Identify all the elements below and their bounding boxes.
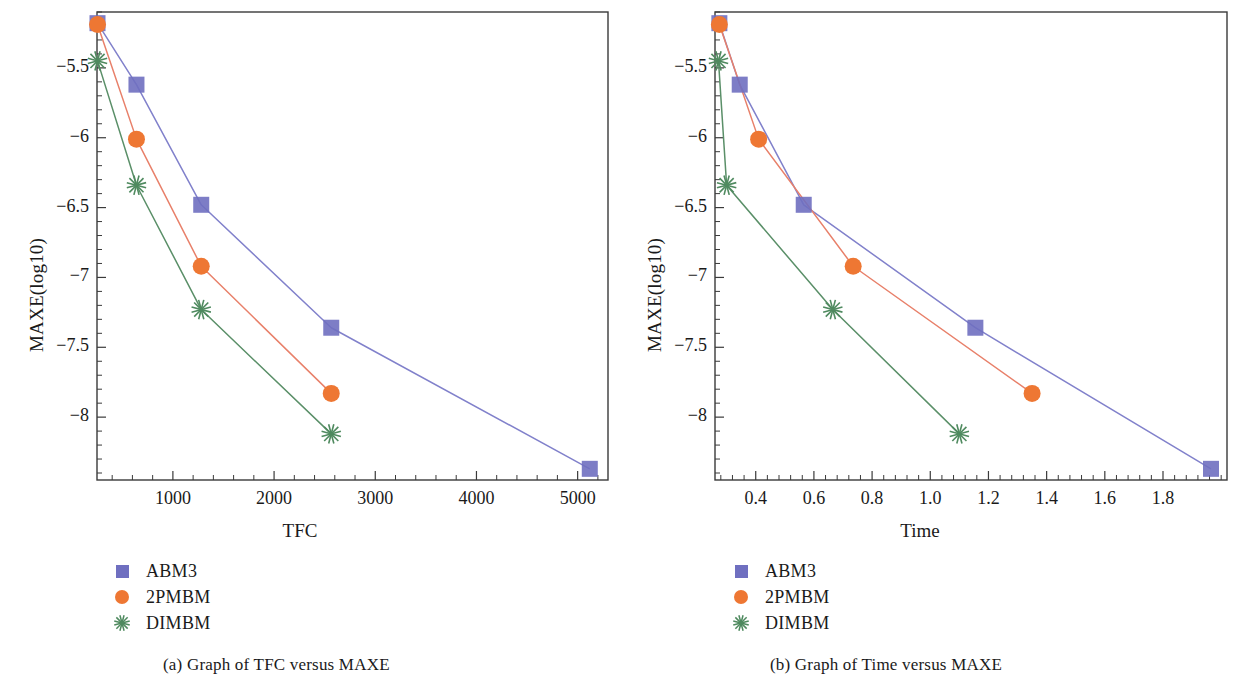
y-tick-label: −5.5 [657, 56, 707, 77]
panel-time-vs-maxe: MAXE(log10) Time ABM32PMBMDIMBM (b) Grap… [617, 0, 1234, 684]
legend-label: ABM3 [146, 561, 197, 582]
legend-label: DIMBM [146, 613, 211, 634]
legend-circle-icon [727, 590, 755, 604]
legend-square-icon [727, 565, 755, 578]
y-tick-label: −7 [657, 265, 707, 286]
legend-star-icon [108, 614, 136, 632]
legend-item-abm3[interactable]: ABM3 [108, 558, 211, 584]
y-tick-label: −7.5 [39, 335, 89, 356]
legend-b: ABM32PMBMDIMBM [727, 558, 830, 636]
y-tick-label: −8 [657, 405, 707, 426]
legend-label: 2PMBM [765, 587, 830, 608]
caption-b: (b) Graph of Time versus MAXE [770, 655, 1002, 675]
square-marker-icon [116, 565, 129, 578]
legend-item-dimbm[interactable]: DIMBM [108, 610, 211, 636]
x-tick-label: 1000 [133, 488, 213, 509]
star-marker-icon [732, 614, 750, 632]
x-axis-label-b: Time [860, 520, 980, 542]
y-tick-label: −6.5 [39, 196, 89, 217]
x-tick-label: 4000 [436, 488, 516, 509]
y-tick-label: −7 [39, 265, 89, 286]
figure-two-panel: MAXE(log10) TFC ABM32PMBMDIMBM (a) Graph… [0, 0, 1235, 684]
square-marker-icon [735, 565, 748, 578]
legend-a: ABM32PMBMDIMBM [108, 558, 211, 636]
legend-square-icon [108, 565, 136, 578]
x-tick-label: 1.8 [1123, 488, 1203, 509]
x-axis-label-a: TFC [240, 520, 360, 542]
circle-marker-icon [734, 590, 748, 604]
x-tick-label: 2000 [234, 488, 314, 509]
chart-svg-a [0, 0, 617, 540]
chart-svg-b [617, 0, 1234, 540]
x-tick-label: 3000 [335, 488, 415, 509]
y-tick-label: −6 [657, 126, 707, 147]
legend-star-icon [727, 614, 755, 632]
y-tick-label: −8 [39, 405, 89, 426]
legend-item-dimbm[interactable]: DIMBM [727, 610, 830, 636]
plot-area-a [0, 0, 617, 540]
y-tick-label: −7.5 [657, 335, 707, 356]
legend-label: ABM3 [765, 561, 816, 582]
y-tick-label: −5.5 [39, 56, 89, 77]
star-marker-icon [113, 614, 131, 632]
y-tick-label: −6 [39, 126, 89, 147]
legend-item-2pmbm[interactable]: 2PMBM [108, 584, 211, 610]
caption-a: (a) Graph of TFC versus MAXE [163, 655, 390, 675]
legend-circle-icon [108, 590, 136, 604]
legend-label: DIMBM [765, 613, 830, 634]
legend-item-2pmbm[interactable]: 2PMBM [727, 584, 830, 610]
circle-marker-icon [115, 590, 129, 604]
legend-label: 2PMBM [146, 587, 211, 608]
plot-area-b [617, 0, 1234, 540]
panel-tfc-vs-maxe: MAXE(log10) TFC ABM32PMBMDIMBM (a) Graph… [0, 0, 617, 684]
legend-item-abm3[interactable]: ABM3 [727, 558, 830, 584]
x-tick-label: 5000 [538, 488, 618, 509]
y-tick-label: −6.5 [657, 196, 707, 217]
